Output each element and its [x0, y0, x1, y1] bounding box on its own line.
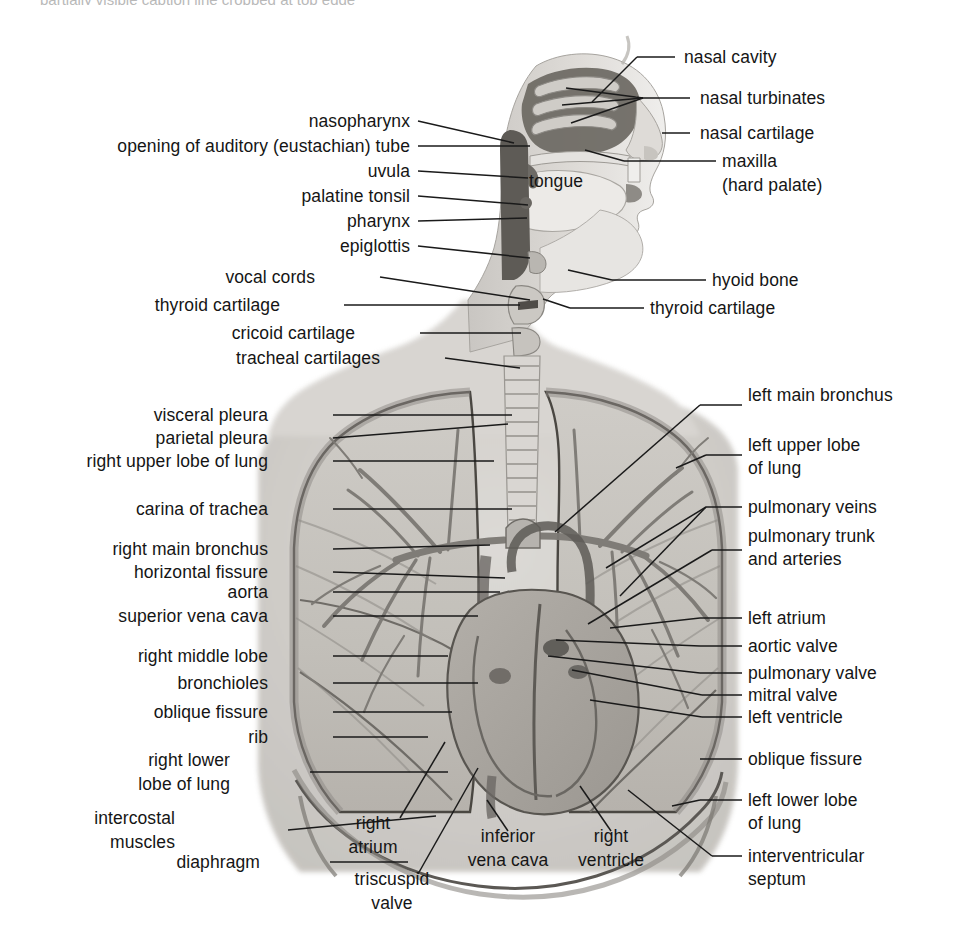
label-cricoid-cartilage: cricoid cartilage [0, 323, 355, 344]
label-pulmonary-trunk-1: pulmonary trunk [748, 526, 875, 547]
anatomy-figure: partially visible caption line cropped a… [0, 0, 960, 950]
label-nasal-cartilage: nasal cartilage [700, 123, 814, 144]
label-hyoid-bone: hyoid bone [712, 270, 799, 291]
label-pharynx: pharynx [0, 211, 410, 232]
label-aortic-valve: aortic valve [748, 636, 838, 657]
label-mitral-valve: mitral valve [748, 685, 838, 706]
label-triscuspid-2: valve [272, 893, 512, 914]
label-horizontal-fissure: horizontal fissure [0, 562, 268, 583]
label-thyroid-cartilage-l: thyroid cartilage [0, 295, 280, 316]
label-carina-of-trachea: carina of trachea [0, 499, 268, 520]
label-auditory-tube: opening of auditory (eustachian) tube [0, 136, 410, 157]
label-right-upper-lobe: right upper lobe of lung [0, 451, 268, 472]
label-right-lower-lobe-2: lobe of lung [0, 774, 230, 795]
label-tracheal-cartilages: tracheal cartilages [0, 348, 380, 369]
label-left-lower-lobe-1: left lower lobe [748, 790, 857, 811]
label-epiglottis: epiglottis [0, 236, 410, 257]
label-left-upper-lobe-2: of lung [748, 458, 801, 479]
label-right-ventricle-2: ventricle [491, 850, 731, 871]
label-nasal-turbinates: nasal turbinates [700, 88, 825, 109]
label-interventricular-1: interventricular [748, 846, 864, 867]
label-vocal-cords: vocal cords [0, 267, 315, 288]
label-left-upper-lobe-1: left upper lobe [748, 435, 860, 456]
label-thyroid-cartilage-r: thyroid cartilage [650, 298, 775, 319]
label-maxilla: maxilla [722, 151, 777, 172]
label-pulmonary-veins: pulmonary veins [748, 497, 877, 518]
head-sagittal-section [468, 36, 666, 352]
label-palatine-tonsil: palatine tonsil [0, 186, 410, 207]
label-aorta: aorta [0, 582, 268, 603]
label-triscuspid-1: triscuspid [272, 869, 512, 890]
label-nasopharynx: nasopharynx [0, 111, 410, 132]
label-pulmonary-trunk-2: and arteries [748, 549, 842, 570]
label-left-main-bronchus: left main bronchus [748, 385, 893, 406]
label-superior-vena-cava: superior vena cava [0, 606, 268, 627]
label-left-ventricle: left ventricle [748, 707, 843, 728]
label-parietal-pleura: parietal pleura [0, 428, 268, 449]
label-oblique-fissure-l: oblique fissure [748, 749, 862, 770]
label-right-ventricle-1: right [491, 826, 731, 847]
label-right-lower-lobe-1: right lower [0, 750, 230, 771]
label-visceral-pleura: visceral pleura [0, 405, 268, 426]
label-left-lower-lobe-2: of lung [748, 813, 801, 834]
label-rib: rib [0, 727, 268, 748]
label-tongue: tongue [436, 171, 676, 192]
label-right-middle-lobe: right middle lobe [0, 646, 268, 667]
label-right-main-bronchus: right main bronchus [0, 539, 268, 560]
label-interventricular-2: septum [748, 869, 806, 890]
label-uvula: uvula [0, 161, 410, 182]
label-nasal-cavity: nasal cavity [684, 47, 777, 68]
label-intercostal-1: intercostal [0, 808, 175, 829]
label-maxilla-sub: (hard palate) [722, 175, 823, 196]
label-intercostal-2: muscles [0, 832, 175, 853]
label-diaphragm: diaphragm [0, 852, 260, 873]
label-bronchioles: bronchioles [0, 673, 268, 694]
label-pulmonary-valve: pulmonary valve [748, 663, 877, 684]
label-left-atrium: left atrium [748, 608, 826, 629]
label-oblique-fissure-r: oblique fissure [0, 702, 268, 723]
